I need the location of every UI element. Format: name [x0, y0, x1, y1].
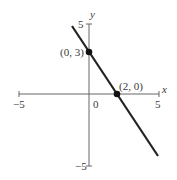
x-max-label: 5: [155, 98, 161, 110]
y-min-label: −5: [75, 160, 87, 172]
origin-label: 0: [93, 98, 99, 110]
coordinate-plot: x y −5 5 5 −5 0 (0, 3) (2, 0): [0, 0, 177, 180]
point-0-3: [86, 49, 93, 56]
x-axis-label: x: [161, 83, 167, 95]
x-min-label: −5: [13, 98, 25, 110]
y-axis-label: y: [89, 8, 95, 20]
point-a-label: (0, 3): [60, 46, 84, 59]
plotted-line: [72, 26, 158, 156]
point-b-label: (2, 0): [119, 80, 143, 93]
y-max-label: 5: [78, 18, 84, 30]
